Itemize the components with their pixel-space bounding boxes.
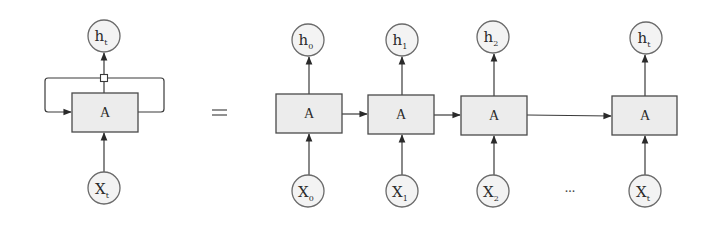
unrolled-step-0: A h0 X0 (276, 24, 342, 207)
rolled-rnn: A ht Xt (45, 20, 164, 204)
equals-sign (212, 110, 227, 115)
junction-node (101, 75, 108, 82)
hidden-edge-2-t (527, 115, 611, 116)
rnn-diagram: A ht Xt A h0 X0 (0, 0, 716, 226)
unrolled-step-2: A h2 X2 (461, 21, 527, 207)
cell-label: A (396, 107, 407, 122)
cell-label: A (304, 106, 315, 121)
unrolled-step-1: A h1 X1 (368, 24, 434, 207)
cell-label: A (489, 108, 500, 123)
ellipsis: ... (565, 180, 576, 195)
unrolled-rnn: A h0 X0 A h1 X1 A h2 X2 (276, 21, 677, 207)
cell-label: A (640, 108, 651, 123)
cell-label: A (100, 105, 111, 120)
unrolled-step-t: A ht Xt (612, 22, 677, 207)
